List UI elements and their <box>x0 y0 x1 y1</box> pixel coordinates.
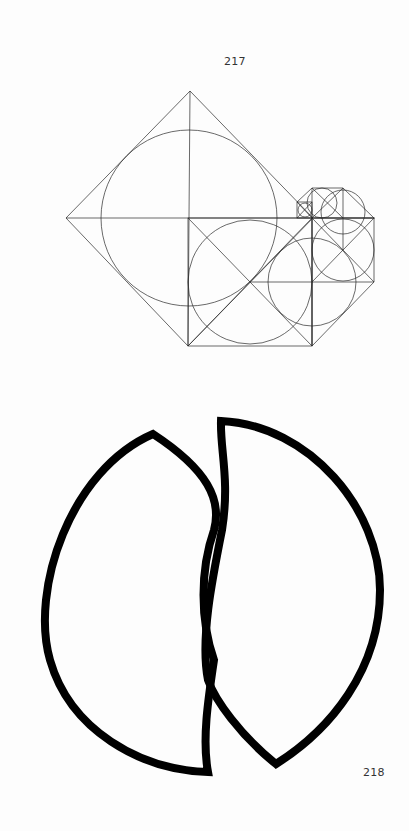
figure-number-218: 218 <box>363 766 385 779</box>
book-page: 217 <box>0 0 409 831</box>
left-lens-outline <box>45 434 216 772</box>
right-lens-outline <box>205 421 380 764</box>
figure-218-interlocking-lenses <box>0 0 409 831</box>
